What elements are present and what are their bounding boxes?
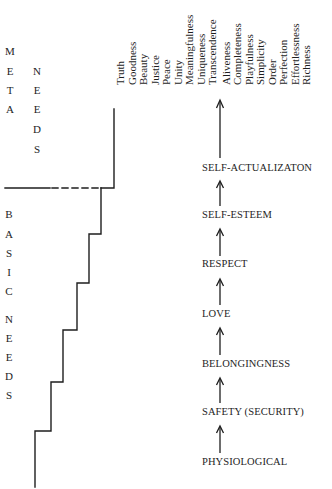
meta-value: Uniqueness bbox=[196, 34, 207, 85]
meta-value: Beauty bbox=[138, 54, 149, 85]
level-respect: RESPECT bbox=[202, 258, 248, 269]
meta-letter: A bbox=[4, 104, 16, 115]
level-safety: SAFETY (SECURITY) bbox=[202, 406, 304, 417]
meta-letter: T bbox=[4, 85, 16, 96]
basic-letter: S bbox=[3, 248, 15, 259]
meta-value: Simplicity bbox=[255, 39, 266, 85]
level-belongingness: BELONGINGNESS bbox=[202, 358, 290, 369]
needs-letter: D bbox=[31, 124, 43, 135]
meta-letter: E bbox=[4, 66, 16, 77]
level-self-esteem: SELF-ESTEEM bbox=[202, 209, 272, 220]
needs-letter: N bbox=[31, 66, 43, 77]
meta-needs-step bbox=[101, 109, 114, 188]
level-physiological: PHYSIOLOGICAL bbox=[202, 456, 287, 467]
basic-letter: I bbox=[3, 267, 15, 278]
basic-needs-staircase bbox=[35, 188, 101, 487]
needs-letter: E bbox=[31, 104, 43, 115]
level-self-actualization: SELF-ACTUALIZATON bbox=[202, 162, 312, 173]
meta-value: Aliveness bbox=[221, 42, 232, 85]
meta-value: Playfulness bbox=[244, 34, 255, 85]
meta-value: Transcendence bbox=[207, 19, 218, 85]
meta-value: Completeness bbox=[232, 23, 243, 85]
meta-value: Goodness bbox=[127, 42, 138, 85]
maslow-needs-diagram: M E T A N E E D S B A S I C N E E D S Tr… bbox=[0, 0, 332, 489]
meta-value: Order bbox=[267, 59, 278, 85]
basic-letter: A bbox=[3, 229, 15, 240]
meta-value: Richness bbox=[301, 45, 312, 85]
basic-letter: E bbox=[3, 333, 15, 344]
needs-letter: E bbox=[31, 85, 43, 96]
basic-letter: N bbox=[3, 314, 15, 325]
meta-value: Unity bbox=[173, 60, 184, 85]
basic-letter: E bbox=[3, 352, 15, 363]
hierarchy-arrows bbox=[217, 100, 224, 453]
meta-letter: M bbox=[4, 46, 16, 57]
level-love: LOVE bbox=[202, 308, 230, 319]
meta-value: Effortlessness bbox=[290, 23, 301, 85]
basic-letter: C bbox=[3, 286, 15, 297]
meta-value: Justice bbox=[150, 55, 161, 85]
basic-letter: D bbox=[3, 371, 15, 382]
needs-letter: S bbox=[31, 144, 43, 155]
meta-value: Peace bbox=[161, 59, 172, 85]
meta-value: Perfection bbox=[278, 40, 289, 85]
basic-letter: B bbox=[3, 209, 15, 220]
meta-value: Meaningfulness bbox=[184, 15, 195, 85]
meta-value: Truth bbox=[115, 61, 126, 85]
basic-letter: S bbox=[3, 390, 15, 401]
